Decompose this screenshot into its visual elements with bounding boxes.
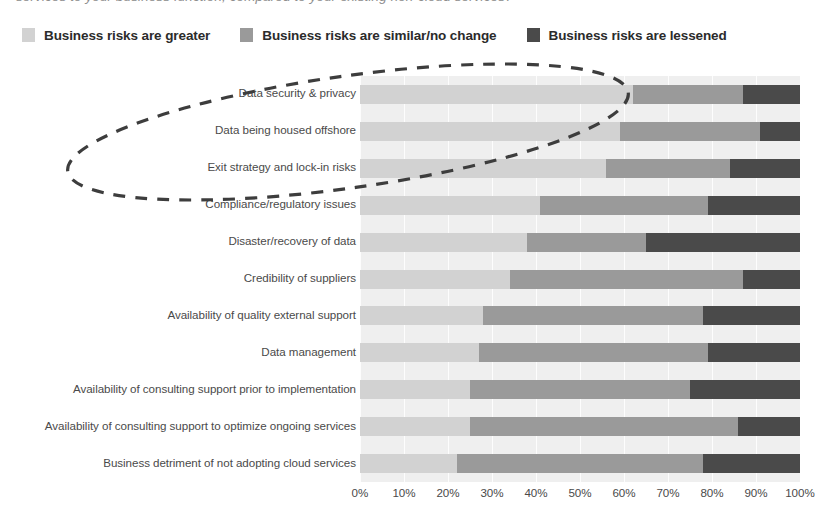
bar-segment-1	[360, 306, 483, 325]
x-tick-label: 50%	[568, 486, 591, 499]
category-label: Availability of quality external support	[167, 308, 356, 321]
category-label: Availability of consulting support to op…	[45, 419, 356, 432]
legend-swatch-dark	[527, 28, 540, 42]
bar-row	[360, 343, 800, 362]
category-label: Availability of consulting support prior…	[73, 382, 356, 395]
category-label: Business detriment of not adopting cloud…	[103, 456, 356, 469]
x-tick-label: 70%	[656, 486, 679, 499]
caption-strip: services to your business function, comp…	[0, 0, 828, 13]
category-label: Disaster/recovery of data	[228, 234, 356, 247]
x-axis: 0%10%20%30%40%50%60%70%80%90%100%	[360, 486, 800, 508]
x-tick-label: 90%	[744, 486, 767, 499]
bar-segment-2	[479, 343, 708, 362]
bar-segment-1	[360, 233, 527, 252]
legend-label: Business risks are lessened	[549, 28, 727, 43]
x-tick-label: 60%	[612, 486, 635, 499]
bar-row	[360, 122, 800, 141]
bar-segment-2	[470, 417, 738, 436]
bar-row	[360, 159, 800, 178]
category-label: Exit strategy and lock-in risks	[207, 160, 356, 173]
legend-label: Business risks are similar/no change	[262, 28, 496, 43]
bar-segment-2	[510, 270, 743, 289]
bar-segment-3	[760, 122, 800, 141]
bar-segment-1	[360, 85, 633, 104]
x-tick-label: 80%	[700, 486, 723, 499]
bar-row	[360, 233, 800, 252]
bar-segment-1	[360, 270, 510, 289]
legend-label: Business risks are greater	[44, 28, 210, 43]
bar-row	[360, 306, 800, 325]
bar-segment-1	[360, 122, 620, 141]
bar-segment-1	[360, 454, 457, 473]
category-label: Data being housed offshore	[215, 123, 356, 136]
bar-segment-3	[703, 306, 800, 325]
x-tick-label: 10%	[392, 486, 415, 499]
bar-row	[360, 380, 800, 399]
bar-segment-2	[483, 306, 703, 325]
bar-segment-2	[606, 159, 729, 178]
bar-segment-3	[690, 380, 800, 399]
x-tick-label: 30%	[480, 486, 503, 499]
gridline-100	[800, 76, 801, 482]
bar-row	[360, 270, 800, 289]
legend-item-3: Business risks are lessened	[527, 28, 727, 43]
bar-segment-1	[360, 196, 540, 215]
bar-segment-3	[730, 159, 800, 178]
bar-segment-1	[360, 380, 470, 399]
plot-area	[360, 76, 800, 482]
bar-segment-3	[708, 196, 800, 215]
bar-row	[360, 85, 800, 104]
chart-area: 0%10%20%30%40%50%60%70%80%90%100% Data s…	[0, 62, 828, 522]
bar-segment-1	[360, 159, 606, 178]
x-tick-label: 40%	[524, 486, 547, 499]
bar-segment-1	[360, 343, 479, 362]
x-tick-label: 0%	[352, 486, 369, 499]
bar-segment-3	[646, 233, 800, 252]
category-label: Compliance/regulatory issues	[205, 197, 356, 210]
bar-row	[360, 454, 800, 473]
bar-segment-3	[743, 270, 800, 289]
chart-legend: Business risks are greaterBusiness risks…	[22, 24, 812, 46]
bar-row	[360, 196, 800, 215]
category-label: Credibility of suppliers	[244, 271, 356, 284]
bar-segment-3	[743, 85, 800, 104]
bar-row	[360, 417, 800, 436]
category-label: Data security & privacy	[239, 86, 356, 99]
bar-segment-2	[540, 196, 707, 215]
x-tick-label: 100%	[785, 486, 815, 499]
legend-swatch-light	[22, 28, 35, 42]
legend-item-2: Business risks are similar/no change	[240, 28, 496, 43]
bar-segment-3	[708, 343, 800, 362]
bar-segment-3	[738, 417, 800, 436]
bar-segment-2	[457, 454, 703, 473]
bar-segment-2	[527, 233, 646, 252]
bar-segment-3	[703, 454, 800, 473]
caption-text: services to your business function, comp…	[16, 0, 513, 4]
bar-segment-2	[620, 122, 761, 141]
bar-segment-2	[470, 380, 690, 399]
legend-item-1: Business risks are greater	[22, 28, 210, 43]
bar-segment-2	[633, 85, 743, 104]
legend-swatch-medium	[240, 28, 253, 42]
category-label: Data management	[261, 345, 356, 358]
x-tick-label: 20%	[436, 486, 459, 499]
bar-segment-1	[360, 417, 470, 436]
